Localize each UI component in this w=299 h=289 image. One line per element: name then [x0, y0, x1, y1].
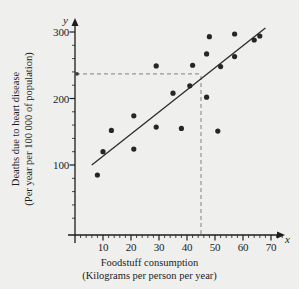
scatter-points-group: [95, 31, 263, 177]
data-point: [109, 128, 114, 133]
x-tick-label: 50: [210, 241, 221, 253]
y-axis: [72, 18, 79, 243]
data-point: [187, 83, 192, 88]
data-point: [232, 31, 237, 36]
plot-canvas: [0, 0, 299, 289]
y-axis-title: Deaths due to heart disease (Per year pe…: [9, 29, 35, 229]
x-tick-label: 40: [182, 241, 193, 253]
x-axis-title-line-1: Foodstuff consumption: [0, 256, 299, 269]
data-point: [204, 95, 209, 100]
x-axis-title-line-2: (Kilograms per person per year): [0, 269, 299, 282]
data-point: [170, 91, 175, 96]
data-point: [154, 63, 159, 68]
x-axis-symbol: x: [285, 233, 290, 245]
y-axis-symbol: y: [63, 14, 68, 26]
data-point: [232, 54, 237, 59]
data-point: [257, 33, 262, 38]
y-axis-ticks: [70, 32, 76, 218]
data-point: [215, 128, 220, 133]
data-point: [204, 51, 209, 56]
data-point: [154, 124, 159, 129]
x-axis-ticks: [81, 235, 283, 241]
x-axis: [68, 232, 285, 239]
guide-lines: [75, 72, 201, 234]
y-tick-label: 100: [44, 159, 69, 171]
data-point: [252, 37, 257, 42]
data-point: [95, 172, 100, 177]
x-axis-title: Foodstuff consumption (Kilograms per per…: [0, 256, 299, 282]
data-point: [218, 64, 223, 69]
y-tick-label: 300: [44, 26, 69, 38]
x-tick-label: 30: [154, 241, 165, 253]
x-tick-label: 60: [238, 241, 249, 253]
line-of-best-fit: [92, 28, 266, 165]
data-point: [179, 126, 184, 131]
data-point: [131, 113, 136, 118]
x-tick-label: 70: [266, 241, 277, 253]
x-tick-label: 10: [98, 241, 109, 253]
y-axis-title-line-2: (Per year per 100 000 of population): [22, 29, 35, 229]
y-tick-label: 200: [44, 93, 69, 105]
scatter-plot-figure: 10203040506070 100200300 y x Foodstuff c…: [0, 0, 299, 289]
data-point: [190, 63, 195, 68]
data-point: [207, 34, 212, 39]
x-tick-label: 20: [126, 241, 137, 253]
data-point: [131, 146, 136, 151]
y-axis-title-line-1: Deaths due to heart disease: [9, 29, 22, 229]
data-point: [100, 149, 105, 154]
